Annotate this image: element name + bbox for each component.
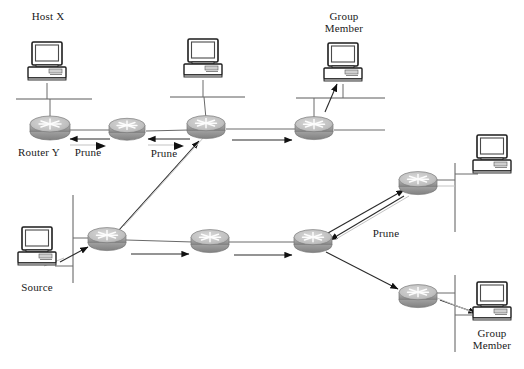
label-prune-3: Prune — [362, 227, 410, 239]
trunk-b1-b2 — [126, 240, 193, 242]
computer-group-member-top[interactable] — [324, 43, 362, 81]
router-top-4[interactable] — [295, 117, 333, 140]
label-group-member-top-line2: Member — [315, 22, 373, 35]
stub-links — [47, 80, 478, 315]
label-group-member-top-line1: Group — [315, 10, 373, 23]
computer-host-x[interactable] — [28, 42, 66, 80]
router-right-down[interactable] — [399, 285, 437, 308]
router-top-2[interactable] — [109, 118, 145, 140]
diagram-svg — [0, 0, 524, 369]
router-bottom-1[interactable] — [88, 228, 126, 251]
computer-top-middle[interactable] — [184, 39, 222, 77]
computer-source[interactable] — [18, 227, 56, 265]
lan-segments — [16, 97, 455, 352]
router-bottom-2[interactable] — [191, 230, 229, 253]
trunk-r2-r3 — [146, 130, 189, 131]
label-group-member-bottom-line1: Group — [463, 327, 521, 340]
routers — [30, 116, 437, 308]
network-diagram-canvas: Host X Router Y Prune Prune Group Member… — [0, 0, 524, 369]
arrow-source-to-router-b1 — [60, 247, 88, 262]
label-source: Source — [11, 281, 63, 293]
router-right-up[interactable] — [399, 172, 437, 195]
prune-arrows — [70, 139, 404, 240]
label-prune-2: Prune — [142, 147, 186, 159]
computer-group-member-bottom[interactable] — [473, 282, 511, 320]
label-group-member-bottom-line2: Member — [463, 339, 521, 352]
label-router-y: Router Y — [8, 146, 70, 158]
router-bottom-3[interactable] — [294, 230, 332, 253]
label-host-x: Host X — [17, 10, 79, 22]
router-top-3[interactable] — [187, 116, 225, 139]
label-prune-1: Prune — [66, 146, 110, 158]
arrow-b3-to-right-down — [326, 252, 398, 289]
computer-right-middle[interactable] — [473, 135, 511, 173]
router-router-y[interactable] — [30, 116, 70, 140]
